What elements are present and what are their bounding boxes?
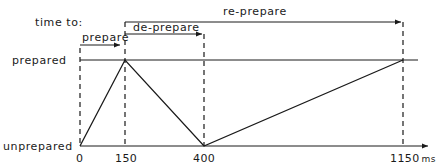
timing-diagram: time to: prepared unprepared prepare de-… <box>0 0 445 167</box>
tick-1150: 1150ms <box>390 152 436 165</box>
tick-150: 150 <box>115 152 137 165</box>
de-prepare-label: de-prepare <box>133 21 200 34</box>
tick-0: 0 <box>76 152 83 165</box>
prepare-label: prepare <box>82 31 129 44</box>
re-prepare-label: re-prepare <box>223 5 287 18</box>
state-label-prepared: prepared <box>12 54 67 67</box>
state-trajectory <box>80 60 403 146</box>
time-to-label: time to: <box>35 16 83 29</box>
state-label-unprepared: unprepared <box>3 140 73 153</box>
tick-400: 400 <box>193 152 215 165</box>
